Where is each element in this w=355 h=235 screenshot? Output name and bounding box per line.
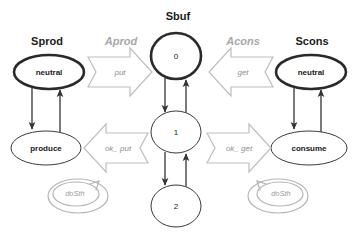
buffer-automaton: 0 1 2 bbox=[151, 33, 201, 227]
column-title-sprod: Sprod bbox=[31, 35, 63, 47]
state-buf-1[interactable]: 1 bbox=[151, 111, 201, 153]
state-buf-0[interactable]: 0 bbox=[151, 33, 201, 79]
channel-message-ok-get[interactable]: ok_ get bbox=[207, 124, 271, 172]
state-buf-2[interactable]: 2 bbox=[151, 185, 201, 227]
state-prod-produce[interactable]: produce bbox=[11, 131, 81, 165]
state-cons-neutral-label: neutral bbox=[298, 68, 325, 77]
state-cons-consume[interactable]: consume bbox=[271, 131, 347, 165]
channel-message-ok-put-label: ok_ put bbox=[105, 144, 132, 153]
state-prod-produce-label: produce bbox=[30, 144, 62, 153]
column-title-aprod: Aprod bbox=[104, 35, 138, 47]
column-title-scons: Scons bbox=[295, 35, 328, 47]
column-title-sbuf: Sbuf bbox=[166, 10, 191, 22]
self-loop-cons-dosth[interactable]: doSth bbox=[248, 179, 308, 213]
self-loop-cons-label: doSth bbox=[271, 189, 291, 198]
state-buf-1-label: 1 bbox=[174, 128, 179, 137]
channel-message-ok-get-label: ok_ get bbox=[226, 144, 253, 153]
state-buf-2-label: 2 bbox=[174, 202, 179, 211]
channel-message-get-label: get bbox=[237, 68, 249, 77]
state-machine-diagram: Sprod Aprod Sbuf Acons Scons neutral pro… bbox=[0, 0, 355, 235]
channel-message-put[interactable]: put bbox=[88, 48, 152, 96]
diagram-canvas: Sprod Aprod Sbuf Acons Scons neutral pro… bbox=[0, 0, 355, 235]
self-loop-prod-label: doSth bbox=[65, 189, 85, 198]
self-loop-prod-dosth[interactable]: doSth bbox=[48, 179, 108, 213]
state-cons-neutral[interactable]: neutral bbox=[276, 55, 346, 89]
state-prod-neutral-label: neutral bbox=[36, 68, 63, 77]
state-buf-0-label: 0 bbox=[174, 52, 179, 61]
channel-message-get[interactable]: get bbox=[209, 48, 273, 96]
channel-message-ok-put[interactable]: ok_ put bbox=[84, 124, 148, 172]
column-title-acons: Acons bbox=[225, 35, 260, 47]
state-cons-consume-label: consume bbox=[291, 144, 327, 153]
state-prod-neutral[interactable]: neutral bbox=[14, 55, 84, 89]
channel-message-put-label: put bbox=[113, 68, 126, 77]
